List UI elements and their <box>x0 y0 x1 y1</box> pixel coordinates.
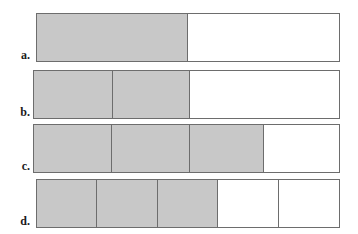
bar-d-cell-5 <box>279 180 339 227</box>
bar-c-cell-3 <box>190 125 265 172</box>
bar-a-cell-2 <box>188 14 339 61</box>
bar-b-cell-1 <box>34 71 113 118</box>
bar-a <box>36 13 340 62</box>
bar-b-cell-3 <box>190 71 339 118</box>
bar-c-cell-1 <box>34 125 112 172</box>
bar-row-b: b. <box>0 70 358 120</box>
bar-c <box>33 124 340 173</box>
bar-row-d: d. <box>0 179 358 229</box>
fraction-bars-figure: a. b. c. d. <box>0 0 358 234</box>
bar-d-cell-3 <box>158 180 218 227</box>
bar-label-a: a. <box>6 49 30 61</box>
bar-row-c: c. <box>0 124 358 174</box>
bar-b <box>33 70 340 119</box>
bar-a-cell-1 <box>37 14 188 61</box>
bar-d <box>36 179 340 228</box>
bar-b-cell-2 <box>113 71 189 118</box>
bar-row-a: a. <box>0 13 358 63</box>
bar-d-cell-1 <box>37 180 97 227</box>
bar-label-d: d. <box>6 215 30 227</box>
bar-label-b: b. <box>6 106 30 118</box>
bar-c-cell-4 <box>264 125 339 172</box>
bar-d-cell-2 <box>97 180 157 227</box>
bar-label-c: c. <box>6 160 30 172</box>
bar-c-cell-2 <box>112 125 190 172</box>
bar-d-cell-4 <box>218 180 278 227</box>
